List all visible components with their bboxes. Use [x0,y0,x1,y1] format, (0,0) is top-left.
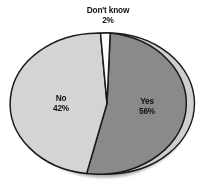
slice-label-dont-know-name: Don't know [64,5,152,15]
pie-chart-graphic [0,0,215,194]
slice-label-yes: Yes 56% [120,96,173,116]
slice-label-yes-value: 56% [120,106,173,116]
slice-label-no-value: 42% [34,103,87,113]
slice-label-dont-know-value: 2% [64,15,152,25]
slice-label-no-name: No [34,93,87,103]
slice-label-yes-name: Yes [120,96,173,106]
slice-label-no: No 42% [34,93,87,113]
slice-label-dont-know: Don't know 2% [64,5,152,25]
pie-chart: Don't know 2% Yes 56% No 42% [0,0,215,194]
